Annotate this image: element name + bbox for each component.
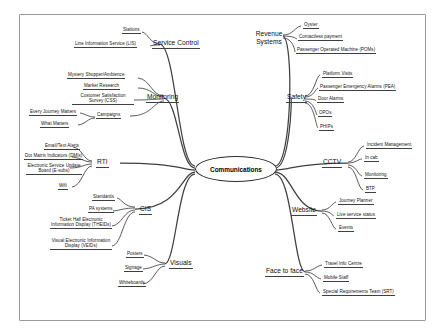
node-line-information-service[interactable]: Line Information Service (LIS) [74, 41, 137, 48]
node-market-research[interactable]: Market Research [83, 83, 120, 90]
node-campaigns[interactable]: Campaigns [96, 112, 121, 119]
node-contactless-payment[interactable]: Contactless payment [298, 34, 343, 41]
branch-label-cctv[interactable]: CCTV [322, 158, 342, 168]
node-email-text-alerts[interactable]: Email/Text Alerts [44, 143, 80, 150]
node-passenger-operated-machine[interactable]: Passenger Operated Machine (POMs) [296, 47, 376, 54]
node-visual-electronic-information-display[interactable]: Visual Electronic Information Display (V… [50, 238, 112, 250]
node-special-requirements-team[interactable]: Special Requirements Team (SRT) [322, 289, 395, 296]
center-node-label: Communications [210, 166, 262, 173]
node-opos[interactable]: OPOs [318, 110, 332, 117]
node-standards[interactable]: Standards [92, 194, 115, 201]
node-incident-management[interactable]: Incident Management [366, 142, 412, 149]
branch-label-rti[interactable]: RTI [96, 158, 109, 168]
branch-label-safety[interactable]: Safety [286, 93, 307, 103]
node-every-journey-matters[interactable]: Every Journey Matters [29, 109, 77, 116]
branch-label-visuals[interactable]: Visuals [169, 259, 193, 269]
node-door-alarms[interactable]: Door Alarms [317, 96, 344, 103]
node-platform-visits[interactable]: Platform Visits [322, 71, 353, 78]
node-posters[interactable]: Posters [126, 251, 144, 258]
branch-label-website[interactable]: Website [291, 206, 317, 216]
node-wifi[interactable]: Wifi [58, 183, 68, 190]
node-events[interactable]: Events [338, 225, 354, 232]
node-stations[interactable]: Stations [122, 27, 141, 34]
branch-label-cis[interactable]: CIS [139, 205, 152, 215]
center-node[interactable]: Communications [195, 156, 277, 182]
node-electronic-service-update-board[interactable]: Electronic Service Update Board (E-subs) [26, 163, 82, 175]
node-btp[interactable]: BTP [365, 186, 376, 193]
node-whiteboards[interactable]: Whiteboards [118, 280, 146, 287]
node-what-matters[interactable]: What Matters [40, 121, 69, 128]
node-journey-planner[interactable]: Journey Planner [338, 198, 374, 205]
branch-label-revenue-systems[interactable]: Revenue Systems [252, 30, 286, 47]
branch-label-service-control[interactable]: Service Control [152, 39, 200, 49]
node-mystery-shopper[interactable]: Mystery Shopper/Ambience [67, 72, 125, 79]
node-in-cab[interactable]: In cab [364, 155, 379, 162]
node-customer-satisfaction-survey[interactable]: Customer Satisfaction Survey (CSS) [72, 93, 134, 105]
node-monitoring-cctv[interactable]: Monitoring [364, 172, 388, 179]
node-oyster[interactable]: Oyster [303, 22, 319, 29]
node-signage[interactable]: Signage [124, 265, 143, 272]
node-phips[interactable]: PHIPs [319, 124, 334, 131]
node-travel-info-centre[interactable]: Travel Info Centre [324, 261, 363, 268]
node-passenger-emergency-alarms[interactable]: Passenger Emergency Alarms (PEA) [319, 84, 396, 91]
node-mobile-staff[interactable]: Mobile Staff [323, 275, 349, 282]
node-ticket-hall-electronic-information-display[interactable]: Ticket Hall Electronic Information Displ… [50, 217, 112, 229]
mindmap-canvas: Communications Service Control Stations … [0, 0, 443, 333]
node-pa-systems[interactable]: PA systems [88, 206, 114, 213]
node-live-service-status[interactable]: Live service status [336, 212, 376, 219]
node-dot-matrix-indicators[interactable]: Dot Matrix Indicators (DMIs) [24, 153, 83, 160]
branch-label-monitoring[interactable]: Monitoring [146, 93, 179, 103]
branch-label-face-to-face[interactable]: Face to face [265, 267, 304, 277]
